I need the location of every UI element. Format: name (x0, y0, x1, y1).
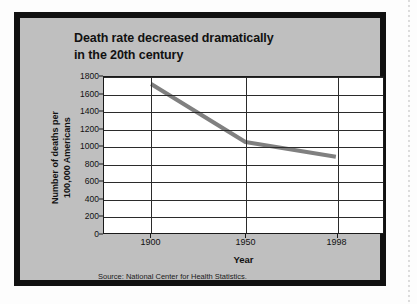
y-axis-tick-label: 1200 (65, 124, 99, 134)
chart-title-line-1: Death rate decreased dramatically (74, 30, 364, 47)
y-axis-tick-label: 1000 (65, 141, 99, 151)
gridline-horizontal (104, 77, 383, 78)
plot-area (103, 76, 384, 234)
gridline-horizontal (104, 200, 383, 201)
gridline-horizontal (104, 95, 383, 96)
x-axis-tick-labels: 190019501998 (103, 237, 384, 253)
y-axis-tick-label: 1600 (65, 89, 99, 99)
y-axis-tick-label: 1800 (65, 71, 99, 81)
y-axis-tick-label: 1400 (65, 106, 99, 116)
series-line (104, 77, 383, 233)
y-axis-tick-labels: 020040060080010001200140016001800 (61, 76, 99, 234)
x-axis-tick-mark (337, 233, 338, 238)
x-axis-tick-label: 1900 (125, 237, 175, 247)
y-axis-tick-label: 200 (65, 211, 99, 221)
x-axis-tick-label: 1998 (312, 237, 362, 247)
gridline-vertical (246, 77, 247, 233)
x-axis-tick-mark (245, 233, 246, 238)
chart-title: Death rate decreased dramatically in the… (74, 30, 364, 63)
x-axis-title: Year (103, 254, 384, 265)
y-axis-tick-label: 0 (65, 229, 99, 239)
figure-frame: Death rate decreased dramatically in the… (14, 12, 386, 286)
gridline-horizontal (104, 182, 383, 183)
y-axis-tick-label: 600 (65, 176, 99, 186)
source-note: Source: National Center for Health Stati… (98, 272, 247, 281)
y-axis-tick-label: 400 (65, 194, 99, 204)
gridline-horizontal (104, 147, 383, 148)
figure-inner-background: Death rate decreased dramatically in the… (20, 18, 380, 280)
gridline-horizontal (104, 217, 383, 218)
x-axis-tick-label: 1950 (220, 237, 270, 247)
chart-title-line-2: in the 20th century (74, 47, 364, 64)
scanned-page: Death rate decreased dramatically in the… (0, 0, 417, 304)
gridline-horizontal (104, 112, 383, 113)
gridline-horizontal (104, 165, 383, 166)
y-axis-tick-label: 800 (65, 159, 99, 169)
x-axis-tick-mark (150, 233, 151, 238)
gridline-horizontal (104, 130, 383, 131)
gridline-vertical (338, 77, 339, 233)
gridline-vertical (151, 77, 152, 233)
scan-edge-artifact (408, 0, 410, 304)
